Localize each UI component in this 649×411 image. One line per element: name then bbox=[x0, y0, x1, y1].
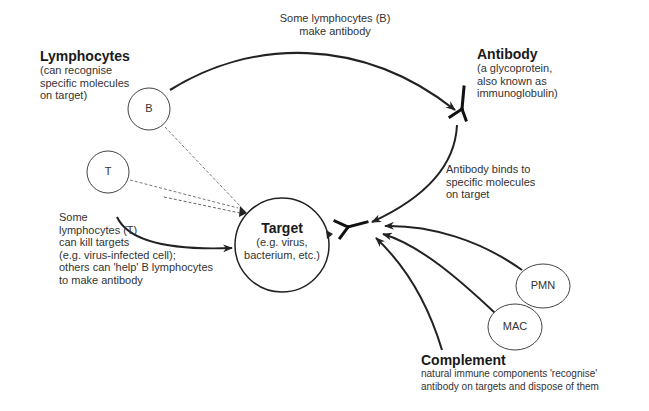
target-title: Target bbox=[235, 220, 329, 236]
target-label: Target (e.g. virus, bacterium, etc.) bbox=[235, 220, 329, 261]
pmn-node-label: PMN bbox=[523, 279, 563, 291]
target-desc-1: (e.g. virus, bbox=[235, 236, 329, 249]
caption-line: Antibody binds to bbox=[446, 163, 535, 176]
antibody-binds-caption: Antibody binds to specific molecules on … bbox=[446, 163, 535, 201]
caption-line: specific molecules bbox=[446, 176, 535, 189]
caption-line: others can 'help' B lymphocytes bbox=[59, 261, 213, 274]
antibody-desc-1: (a glycoprotein, bbox=[477, 62, 558, 75]
b-to-target-dashed-link bbox=[162, 195, 240, 212]
lymphocytes-desc-2: specific molecules bbox=[40, 77, 130, 90]
complement-label: Complement natural immune components 're… bbox=[421, 352, 599, 393]
t-lymphocytes-caption: Some lymphocytes (T) can kill targets (e… bbox=[59, 211, 213, 286]
complement-title: Complement bbox=[421, 352, 599, 368]
complement-desc-2: antibody on targets and dispose of them bbox=[421, 381, 599, 394]
lymphocytes-label: Lymphocytes (can recognise specific mole… bbox=[40, 48, 130, 102]
bound-antibody-icon bbox=[335, 221, 367, 238]
antibody-icon bbox=[450, 87, 466, 120]
b-makes-antibody-caption: Some lymphocytes (B) make antibody bbox=[240, 12, 430, 37]
complement-desc-1: natural immune components 'recognise' bbox=[421, 368, 599, 381]
caption-line: Some bbox=[59, 211, 213, 224]
b-node-label: B bbox=[139, 102, 159, 114]
t-to-target-dashed-line bbox=[130, 180, 238, 208]
antibody-desc-2: also known as bbox=[477, 75, 558, 88]
caption-line: Some lymphocytes (B) bbox=[240, 12, 430, 25]
antibody-binds-arrow bbox=[372, 125, 457, 222]
caption-line: lymphocytes (T) bbox=[59, 224, 213, 237]
lymphocytes-desc-1: (can recognise bbox=[40, 64, 130, 77]
caption-line: to make antibody bbox=[59, 274, 213, 287]
b-to-target-dashed-line bbox=[165, 127, 240, 206]
pmn-arrow bbox=[385, 226, 522, 270]
caption-line: can kill targets bbox=[59, 236, 213, 249]
antibody-label: Antibody (a glycoprotein, also known as … bbox=[477, 46, 558, 100]
antibody-desc-3: immunoglobulin) bbox=[477, 87, 558, 100]
mac-node-label: MAC bbox=[495, 320, 535, 332]
lymphocytes-title: Lymphocytes bbox=[40, 48, 130, 64]
antibody-title: Antibody bbox=[477, 46, 558, 62]
target-desc-2: bacterium, etc.) bbox=[235, 249, 329, 262]
caption-line: (e.g. virus-infected cell); bbox=[59, 249, 213, 262]
b-to-antibody-arrow bbox=[170, 53, 455, 110]
caption-line: on target bbox=[446, 188, 535, 201]
complement-arrow bbox=[376, 238, 442, 350]
caption-line: make antibody bbox=[240, 25, 430, 38]
lymphocytes-desc-3: on target) bbox=[40, 89, 130, 102]
t-node-label: T bbox=[98, 165, 118, 177]
